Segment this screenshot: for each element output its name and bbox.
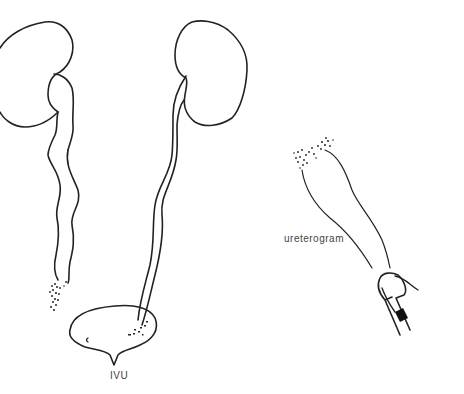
right-kidney <box>175 21 247 126</box>
left-ureter-outer <box>67 150 79 283</box>
left-ureter-inner <box>48 112 60 280</box>
left-ureter-stipple <box>49 281 67 311</box>
left-kidney <box>0 22 73 127</box>
catheter-tip <box>378 273 410 335</box>
ivu-label: IVU <box>110 370 128 381</box>
urinary-tract-drawing <box>0 0 464 394</box>
ureterogram-label: ureterogram <box>284 233 344 244</box>
bladder-contrast-dots <box>128 321 148 336</box>
ureterogram-ureter-right <box>325 150 390 268</box>
ureterogram-stipple <box>293 137 334 169</box>
right-ureter-inner <box>142 100 184 325</box>
diagram-canvas: IVU ureterogram <box>0 0 464 394</box>
ureterogram-ureter-left <box>302 170 372 268</box>
bladder-left-ureteric-orifice <box>87 338 89 342</box>
